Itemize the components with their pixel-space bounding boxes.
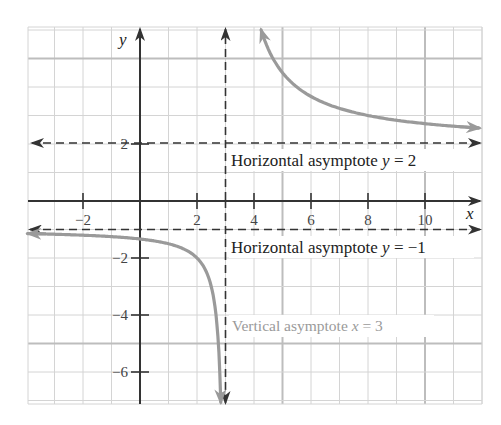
y-tick-label: 2	[121, 136, 129, 152]
y-axis-label: y	[117, 30, 127, 49]
x-tick-label: −2	[75, 212, 91, 228]
h-asymptote-neg1-label: Horizontal asymptote y = −1	[231, 238, 426, 257]
rational-function-graph: −2246810 2−2−4−6 x y Horizontal asymptot…	[0, 0, 501, 425]
y-tick-label: −2	[112, 250, 128, 266]
x-tick-label: 4	[250, 212, 258, 228]
y-tick-label: −4	[112, 307, 128, 323]
h-asymptote-2-label: Horizontal asymptote y = 2	[231, 151, 416, 170]
upper-right-arrow-icon	[459, 127, 479, 128]
x-tick-label: 2	[193, 212, 201, 228]
x-tick-label: 10	[418, 212, 433, 228]
v-asymptote-3-label: Vertical asymptote x = 3	[232, 317, 383, 334]
asymptote-labels: Horizontal asymptote y = 2 Horizontal as…	[229, 149, 474, 337]
y-tick-label: −6	[112, 364, 128, 380]
x-tick-label: 8	[364, 212, 372, 228]
x-tick-label: 6	[307, 212, 315, 228]
upper-branch-curve	[261, 30, 479, 128]
x-axis-label: x	[465, 204, 474, 223]
